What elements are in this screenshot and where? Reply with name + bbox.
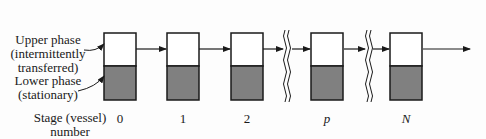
lower-phase-compartment [231,66,263,100]
upper-phase-compartment [231,33,263,66]
lower-phase-line-2: (stationary) [10,88,86,102]
upper-phase-label: Upper phase (intermittently transferred) [10,33,86,75]
vessel-stage-1 [167,33,199,100]
vessel-stage-0 [104,33,136,100]
stage-number-label: Stage (vessel) number [30,111,110,139]
upper-phase-compartment [104,33,136,66]
lower-phase-label: Lower phase (stationary) [10,74,86,102]
stage-number-1: 1 [180,111,187,127]
lower-phase-compartment [104,66,136,100]
lower-phase-line-1: Lower phase [10,74,86,88]
stage-number-2: 2 [244,111,251,127]
stage-label-line-2: number [30,125,110,139]
lower-phase-compartment [390,66,422,100]
stage-number-N: N [402,111,411,127]
upper-phase-line-1: Upper phase [10,33,86,47]
upper-phase-compartment [311,33,343,66]
stage-number-p: p [324,111,331,127]
lower-phase-compartment [167,66,199,100]
upper-phase-compartment [390,33,422,66]
lower-phase-compartment [311,66,343,100]
vessel-stage-p [311,33,343,100]
upper-phase-compartment [167,33,199,66]
stage-label-line-1: Stage (vessel) [30,111,110,125]
vessel-stage-2 [231,33,263,100]
countercurrent-stages-diagram: Upper phase (intermittently transferred)… [0,0,486,139]
vessel-stage-N [390,33,422,100]
stage-number-0: 0 [117,111,124,127]
upper-phase-line-2: (intermittently [10,47,86,61]
